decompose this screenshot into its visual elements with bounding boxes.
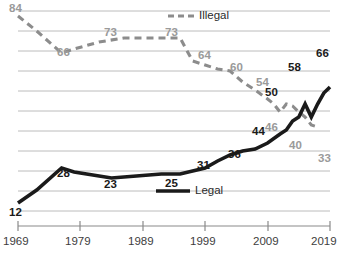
data-label-illegal-64: 64 [198,50,211,62]
x-axis-label-1989: 1989 [128,236,154,248]
data-label-illegal-60: 60 [230,62,243,74]
data-label-legal-50: 50 [265,87,278,99]
x-axis-line [18,221,330,231]
data-label-legal-23: 23 [104,179,117,191]
data-label-legal-12: 12 [9,207,22,219]
data-label-legal-66: 66 [316,48,329,60]
x-axis-label-2019: 2019 [311,236,337,248]
x-axis-label-1979: 1979 [65,236,91,248]
data-label-legal-31: 31 [197,160,210,172]
data-label-illegal-40: 40 [289,140,302,152]
x-axis-label-1969: 1969 [3,236,29,248]
data-label-illegal-46: 46 [265,122,278,134]
data-label-illegal-84: 84 [9,3,22,15]
data-label-illegal-73-a: 73 [104,27,117,39]
chart-container: Illegal Legal 84 66 73 73 64 60 54 46 40… [0,0,338,255]
data-label-legal-58: 58 [288,62,301,74]
data-label-legal-28: 28 [57,168,70,180]
legend-label-legal: Legal [195,185,223,197]
data-label-legal-36: 36 [228,149,241,161]
data-label-legal-44: 44 [252,126,265,138]
x-axis-label-1999: 1999 [190,236,216,248]
data-label-illegal-66: 66 [57,47,70,59]
x-axis-label-2009: 2009 [253,236,279,248]
data-label-illegal-33: 33 [318,153,331,165]
data-label-illegal-73-b: 73 [165,27,178,39]
legend-label-illegal: Illegal [199,10,229,22]
data-label-legal-25: 25 [165,178,178,190]
